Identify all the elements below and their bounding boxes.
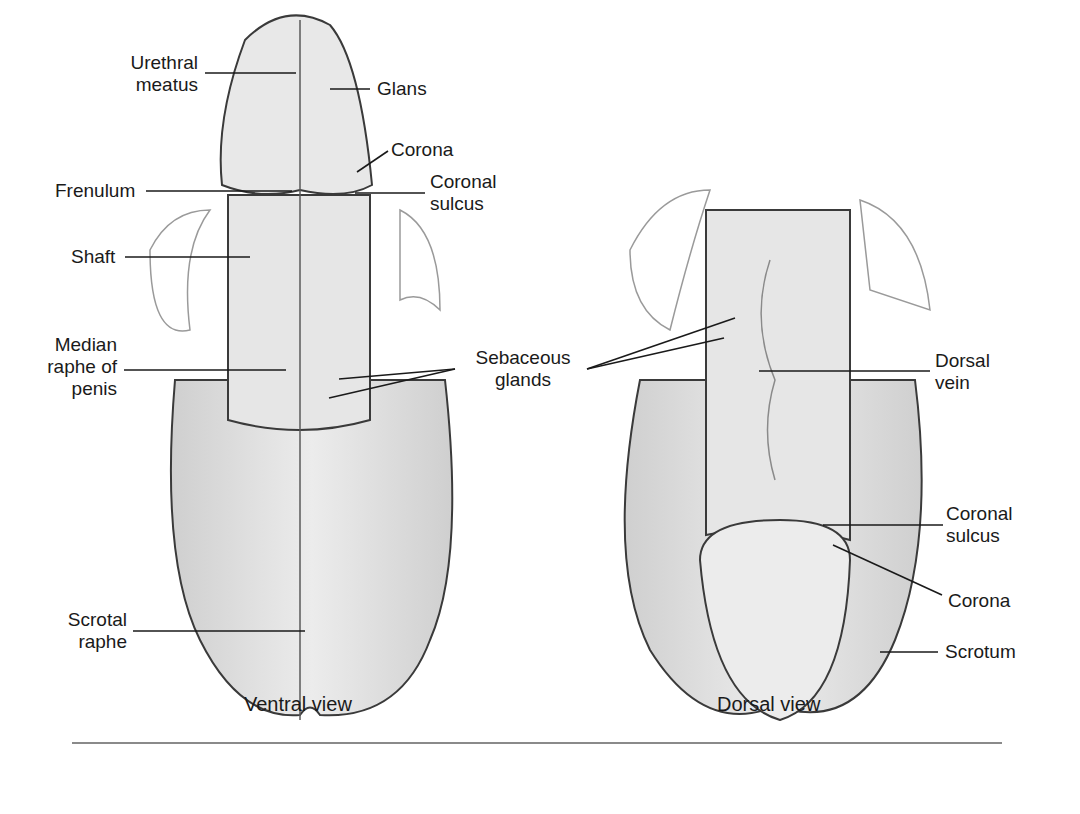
caption-dorsal-view: Dorsal view [717,692,820,716]
dorsal-view-drawing [625,190,930,720]
label-corona-ventral: Corona [391,139,453,161]
label-median-raphe: Median raphe of penis [18,334,117,400]
illustration [0,0,1080,814]
label-coronal-sulcus-dorsal: Coronal sulcus [946,503,1013,547]
label-shaft: Shaft [71,246,115,268]
caption-ventral-view: Ventral view [244,692,352,716]
ventral-view-drawing [150,15,452,720]
label-dorsal-vein: Dorsal vein [935,350,990,394]
label-urethral-meatus: Urethral meatus [88,52,198,96]
divider-rule [72,742,1002,744]
label-frenulum: Frenulum [55,180,135,202]
label-sebaceous-glands: Sebaceous glands [458,347,588,391]
label-corona-dorsal: Corona [948,590,1010,612]
label-glans: Glans [377,78,427,100]
label-scrotal-raphe: Scrotal raphe [30,609,127,653]
label-scrotum: Scrotum [945,641,1016,663]
label-coronal-sulcus-ventral: Coronal sulcus [430,171,497,215]
